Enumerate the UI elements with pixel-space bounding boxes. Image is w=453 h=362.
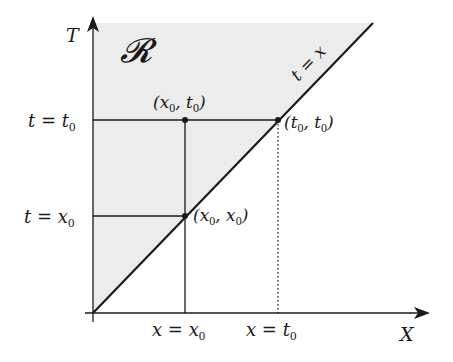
- point-t0-t0: [275, 117, 281, 123]
- t-axis-label: T: [66, 24, 80, 46]
- label-point-x0-x0: (x0, x0): [193, 205, 248, 228]
- label-x-eq-t0: x = t0: [246, 319, 296, 343]
- point-x0-x0: [182, 213, 188, 219]
- point-x0-t0: [182, 117, 188, 123]
- label-t-eq-x0: t = x0: [24, 206, 74, 230]
- label-t-eq-t0: t = t0: [28, 110, 76, 134]
- x-axis-label: X: [398, 323, 415, 345]
- label-point-t0-t0: (t0, t0): [284, 112, 334, 135]
- label-x-eq-x0: x = x0: [152, 319, 205, 343]
- diagram-canvas: 𝓡 T X t = x t = t0 t = x0 x = x0 x = t0 …: [0, 0, 453, 362]
